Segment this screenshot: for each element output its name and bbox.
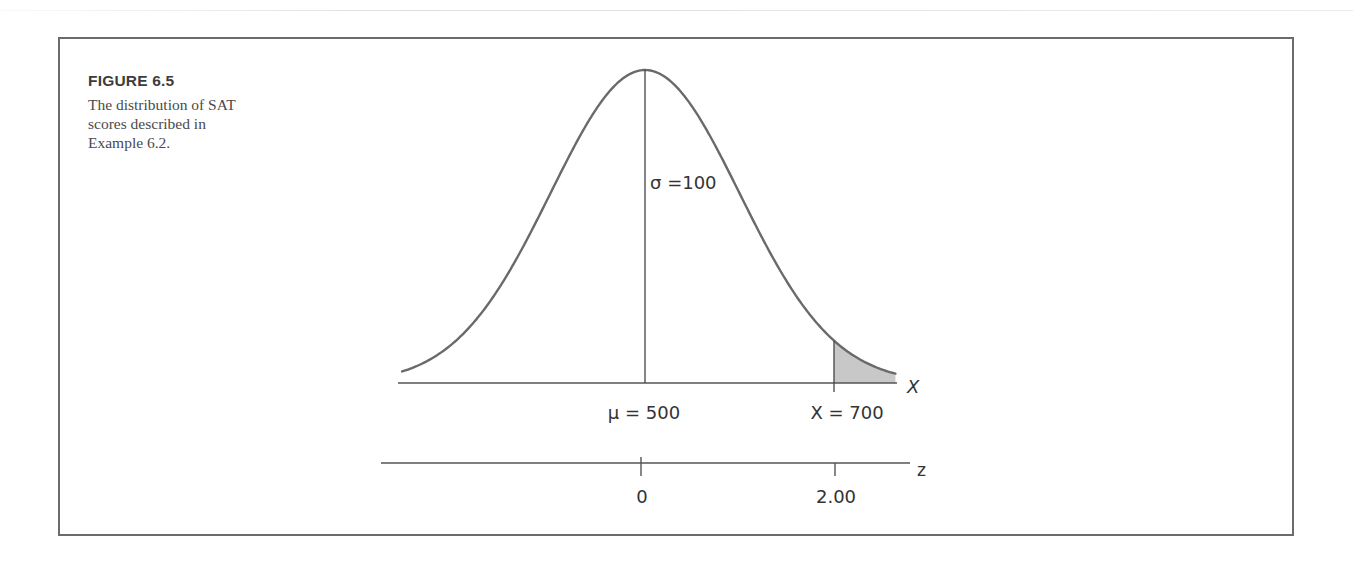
z-axis-label: z (917, 460, 926, 480)
x-axis-label: X (906, 376, 920, 397)
x700-tick-label: X = 700 (810, 402, 883, 423)
z-tick-0-label: 0 (636, 486, 647, 507)
mean-tick-label: μ = 500 (608, 402, 680, 423)
normal-curve (402, 70, 895, 374)
z-tick-2-label: 2.00 (816, 486, 856, 507)
normal-distribution-plot: σ =100 X μ = 500 X = 700 z 0 2.00 (0, 0, 1353, 576)
sigma-label: σ =100 (650, 172, 717, 193)
